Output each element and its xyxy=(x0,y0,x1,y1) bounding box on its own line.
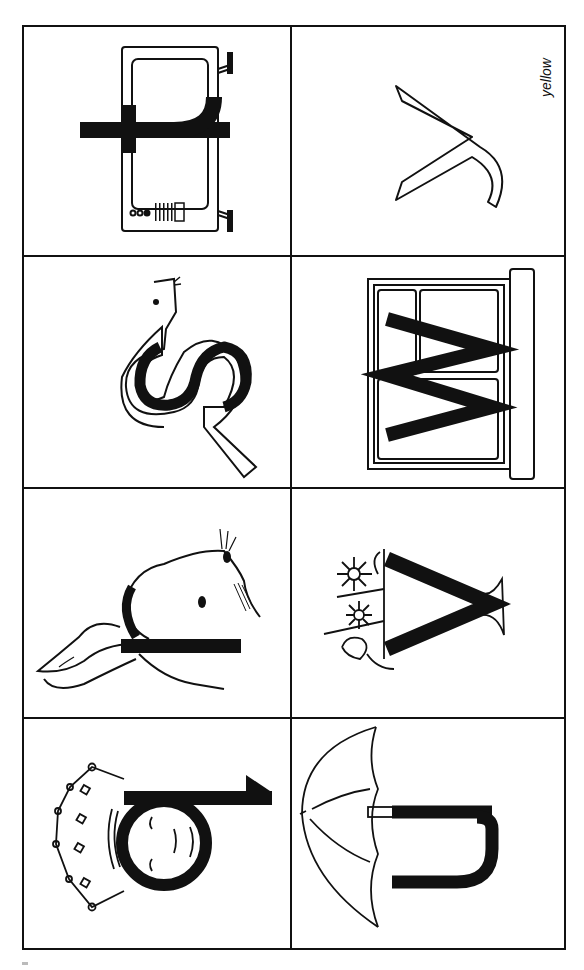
vase-with-flowers-icon xyxy=(292,489,564,717)
cell-w-window xyxy=(292,257,564,487)
cell-b-queen xyxy=(24,719,290,949)
rabbit-icon xyxy=(24,489,290,717)
cell-v-vase xyxy=(292,489,564,717)
scan-artifact-mark xyxy=(22,962,28,965)
cell-y-yellow: yellow xyxy=(292,27,564,255)
umbrella-icon xyxy=(292,719,564,949)
letter-picture-worksheet: yellow xyxy=(0,0,584,970)
cell-s-snake xyxy=(24,257,290,487)
caption-yellow: yellow xyxy=(538,58,554,97)
queen-icon xyxy=(24,719,290,949)
letter-y-outline-icon xyxy=(292,27,564,255)
television-icon xyxy=(24,27,290,255)
cell-l-rabbit xyxy=(24,489,290,717)
cell-t-television xyxy=(24,27,290,255)
snake-icon xyxy=(24,257,290,487)
window-icon xyxy=(292,257,564,487)
cell-u-umbrella xyxy=(292,719,564,949)
